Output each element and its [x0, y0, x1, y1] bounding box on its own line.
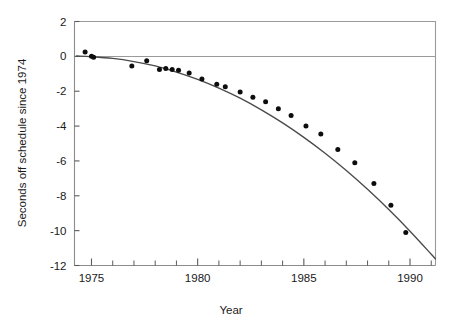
y-tick-label: 2	[60, 16, 66, 28]
y-tick-label: -6	[56, 155, 66, 167]
seconds-off-schedule-chart: 20-2-4-6-8-10-12 1975198019851990 Year S…	[0, 0, 453, 326]
frame-top-right	[75, 22, 436, 266]
x-axis-tick-labels: 1975198019851990	[79, 272, 423, 284]
x-tick-label: 1975	[79, 272, 105, 284]
y-tick-label: -8	[56, 190, 66, 202]
x-axis-title: Year	[219, 304, 242, 316]
data-point	[250, 95, 255, 100]
data-point	[223, 84, 228, 89]
y-axis-ticks	[75, 22, 80, 266]
data-point	[170, 67, 175, 72]
data-point	[352, 160, 357, 165]
data-point	[144, 58, 149, 63]
fitted-curve	[77, 56, 436, 259]
data-point	[157, 67, 162, 72]
data-point	[238, 90, 243, 95]
data-point	[371, 181, 376, 186]
data-point	[187, 70, 192, 75]
y-tick-label: -12	[50, 260, 67, 272]
data-point	[129, 63, 134, 68]
x-tick-label: 1990	[397, 272, 423, 284]
data-point	[214, 82, 219, 87]
data-point	[163, 66, 168, 71]
plot-frame	[75, 22, 436, 266]
data-point	[263, 99, 268, 104]
data-point	[276, 106, 281, 111]
y-tick-label: -4	[56, 120, 67, 132]
data-point	[83, 50, 88, 55]
data-point	[335, 147, 340, 152]
x-axis-ticks	[91, 259, 431, 266]
data-point	[303, 124, 308, 129]
data-point	[403, 230, 408, 235]
data-point	[388, 203, 393, 208]
data-point	[318, 131, 323, 136]
data-point	[289, 113, 294, 118]
y-tick-label: -10	[50, 225, 67, 237]
data-point	[91, 55, 96, 60]
data-point	[176, 68, 181, 73]
figure-container: 20-2-4-6-8-10-12 1975198019851990 Year S…	[0, 0, 453, 326]
x-tick-label: 1985	[291, 272, 317, 284]
y-axis-title: Seconds off schedule since 1974	[16, 58, 28, 227]
axis-left-bottom	[75, 22, 436, 266]
x-tick-label: 1980	[185, 272, 211, 284]
y-axis-tick-labels: 20-2-4-6-8-10-12	[50, 16, 67, 272]
y-tick-label: 0	[60, 50, 66, 62]
data-point	[199, 77, 204, 82]
data-point-group	[83, 50, 409, 235]
y-tick-label: -2	[56, 85, 66, 97]
